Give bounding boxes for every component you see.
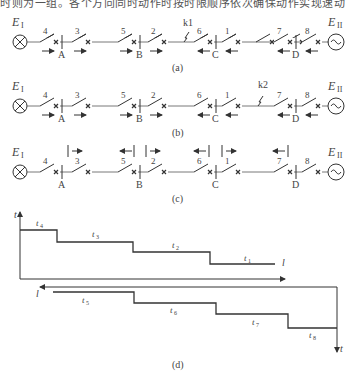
svg-text:E: E bbox=[327, 79, 336, 93]
svg-text:6: 6 bbox=[197, 156, 202, 166]
svg-text:I: I bbox=[21, 151, 24, 160]
source-right-icon bbox=[328, 34, 344, 50]
svg-text:2: 2 bbox=[176, 245, 179, 251]
svg-text:B: B bbox=[136, 113, 143, 124]
svg-text:2: 2 bbox=[151, 26, 156, 36]
svg-text:l: l bbox=[36, 288, 39, 299]
step-chart-top: t l t4 t3 t2 t1 bbox=[14, 209, 285, 279]
svg-text:B: B bbox=[136, 179, 143, 190]
svg-text:8: 8 bbox=[305, 26, 310, 36]
svg-text:4: 4 bbox=[43, 156, 48, 166]
svg-text:7: 7 bbox=[277, 156, 282, 166]
fault-k1-label: k1 bbox=[183, 17, 193, 28]
bus-b-label: B bbox=[136, 49, 143, 60]
svg-text:8: 8 bbox=[305, 156, 310, 166]
svg-text:2: 2 bbox=[151, 90, 156, 100]
svg-text:8: 8 bbox=[305, 90, 310, 100]
svg-text:6: 6 bbox=[197, 90, 202, 100]
t-axis-label: t bbox=[14, 209, 17, 220]
panel-d-caption: (d) bbox=[172, 359, 184, 371]
svg-text:C: C bbox=[212, 179, 219, 190]
svg-text:II: II bbox=[337, 85, 343, 94]
svg-text:3: 3 bbox=[75, 156, 80, 166]
svg-text:D: D bbox=[292, 113, 299, 124]
svg-text:6: 6 bbox=[197, 26, 202, 36]
source-right-label: E bbox=[327, 15, 336, 29]
step-chart-bottom: l t t5 t6 t7 t8 (d) bbox=[36, 287, 343, 371]
svg-text:1: 1 bbox=[225, 26, 230, 36]
svg-text:3: 3 bbox=[75, 26, 80, 36]
svg-text:5: 5 bbox=[121, 90, 126, 100]
source-left-icon bbox=[13, 35, 27, 49]
svg-text:t: t bbox=[92, 229, 95, 239]
svg-text:D: D bbox=[292, 179, 299, 190]
source-right-icon bbox=[328, 98, 344, 114]
panel-a: E I A B C D 4 3 5 2 bbox=[11, 15, 344, 74]
svg-text:4: 4 bbox=[40, 223, 43, 229]
svg-text:t: t bbox=[172, 240, 175, 250]
panel-c: E I A B C D 4 3 5 2 6 1 7 8 bbox=[11, 145, 344, 205]
svg-text:1: 1 bbox=[225, 156, 230, 166]
svg-text:I: I bbox=[21, 85, 24, 94]
svg-text:A: A bbox=[58, 179, 66, 190]
svg-text:A: A bbox=[58, 113, 66, 124]
svg-text:5: 5 bbox=[86, 300, 89, 306]
svg-text:II: II bbox=[337, 21, 343, 30]
direction-markers bbox=[68, 145, 288, 157]
bus-a-label: A bbox=[58, 49, 66, 60]
svg-text:t: t bbox=[252, 317, 255, 327]
svg-text:t: t bbox=[36, 218, 39, 228]
svg-text:8: 8 bbox=[313, 335, 316, 341]
svg-text:7: 7 bbox=[277, 26, 282, 36]
source-left-icon bbox=[13, 165, 27, 179]
panel-c-caption: (c) bbox=[172, 193, 183, 205]
l-axis-label: l bbox=[282, 257, 285, 268]
svg-text:3: 3 bbox=[96, 234, 99, 240]
panel-b: E I A B C D 4 3 5 2 6 1 7 8 bbox=[11, 79, 344, 139]
svg-text:C: C bbox=[212, 113, 219, 124]
fault-k2-icon bbox=[258, 96, 263, 106]
svg-text:t: t bbox=[82, 295, 85, 305]
source-right-icon bbox=[328, 164, 344, 180]
svg-text:t: t bbox=[170, 305, 173, 315]
source-left-label: E bbox=[11, 15, 20, 29]
svg-text:2: 2 bbox=[151, 156, 156, 166]
svg-text:II: II bbox=[337, 151, 343, 160]
svg-text:5: 5 bbox=[121, 156, 126, 166]
bus-d-label: D bbox=[292, 49, 299, 60]
svg-text:E: E bbox=[327, 145, 336, 159]
svg-text:E: E bbox=[11, 145, 20, 159]
svg-text:3: 3 bbox=[75, 90, 80, 100]
svg-text:t: t bbox=[340, 343, 343, 354]
diagram-canvas: E I A B C D 4 3 5 2 bbox=[0, 0, 356, 376]
svg-text:E: E bbox=[11, 79, 20, 93]
svg-text:7: 7 bbox=[277, 90, 282, 100]
svg-text:7: 7 bbox=[256, 322, 259, 328]
source-left-icon bbox=[13, 99, 27, 113]
panel-a-caption: (a) bbox=[172, 62, 183, 74]
svg-text:I: I bbox=[21, 21, 24, 30]
svg-text:4: 4 bbox=[43, 26, 48, 36]
panel-b-caption: (b) bbox=[172, 127, 184, 139]
svg-text:6: 6 bbox=[174, 310, 177, 316]
bus-c-label: C bbox=[212, 49, 219, 60]
svg-text:t: t bbox=[309, 330, 312, 340]
fault-k2-label: k2 bbox=[258, 79, 268, 90]
svg-text:1: 1 bbox=[248, 258, 251, 264]
svg-text:t: t bbox=[244, 253, 247, 263]
fault-k1-icon bbox=[184, 32, 189, 42]
svg-text:5: 5 bbox=[121, 26, 126, 36]
svg-text:4: 4 bbox=[43, 90, 48, 100]
svg-text:1: 1 bbox=[225, 90, 230, 100]
